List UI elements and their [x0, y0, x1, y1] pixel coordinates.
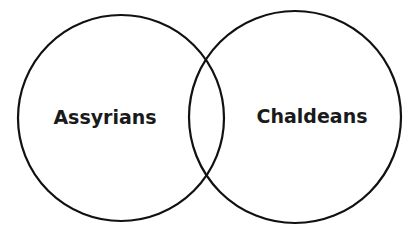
venn-diagram: Assyrians Chaldeans [0, 0, 414, 230]
venn-label-assyrians: Assyrians [53, 106, 156, 128]
venn-label-chaldeans: Chaldeans [257, 105, 368, 127]
venn-diagram-canvas: Assyrians Chaldeans [0, 0, 414, 230]
